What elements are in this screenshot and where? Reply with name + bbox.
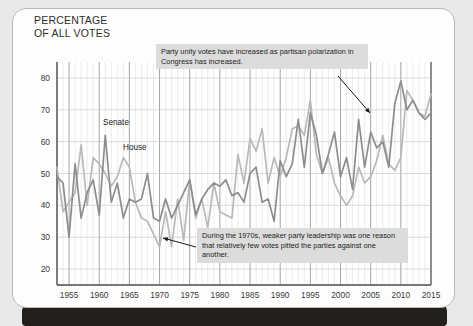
x-tick-label: 2000 — [331, 290, 350, 300]
x-tick-label: 2010 — [392, 290, 411, 300]
x-tick-label: 2005 — [361, 290, 380, 300]
x-tick-label: 1960 — [90, 290, 109, 300]
x-tick-label: 1975 — [180, 290, 199, 300]
y-tick-label: 40 — [41, 200, 51, 210]
x-tick-label: 1970 — [150, 290, 169, 300]
x-tick-label: 1955 — [60, 290, 79, 300]
series-label-house: House — [123, 143, 147, 152]
series-label-senate: Senate — [103, 118, 129, 127]
y-tick-label: 20 — [41, 264, 51, 274]
x-tick-label: 1995 — [301, 290, 320, 300]
y-tick-label: 60 — [41, 137, 51, 147]
y-tick-label: 30 — [41, 232, 51, 242]
screenshot-stage: PERCENTAGE OF ALL VOTES 2030405060708019… — [0, 0, 473, 326]
x-tick-label: 1990 — [271, 290, 290, 300]
x-tick-label: 1980 — [211, 290, 230, 300]
x-tick-label: 1965 — [120, 290, 139, 300]
x-tick-label: 1985 — [241, 290, 260, 300]
annotation-top: Party unity votes have increased as part… — [156, 44, 368, 69]
y-tick-label: 80 — [41, 73, 51, 83]
x-tick-label: 2015 — [422, 290, 441, 300]
y-tick-label: 70 — [41, 105, 51, 115]
annotation-bottom: During the 1970s, weaker party leadershi… — [197, 228, 408, 263]
y-tick-label: 50 — [41, 169, 51, 179]
